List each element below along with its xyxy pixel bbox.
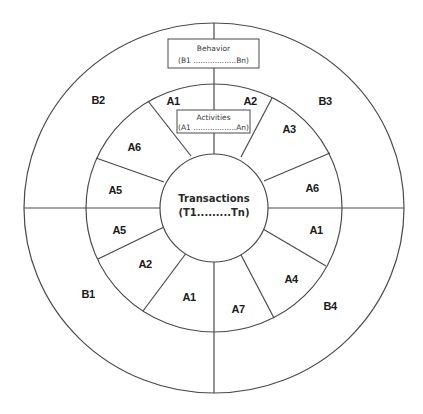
activity-label: A2 (243, 95, 256, 107)
activities-box: Activities (A1 ..................An) (177, 110, 250, 133)
behavior-box-range: (B1 ..................Bn) (178, 56, 249, 65)
center-title: Transactions (178, 193, 249, 204)
activity-label: A3 (282, 123, 295, 135)
activities-box-range: (A1 ..................An) (178, 123, 249, 132)
spoke (98, 227, 164, 259)
behavior-box: Behavior (B1 ..................Bn) (168, 39, 259, 68)
activity-label: A5 (108, 184, 121, 196)
center-subtitle: (T1.........Tn) (178, 207, 249, 218)
activity-label: A6 (305, 182, 318, 194)
behavior-box-title: Behavior (197, 44, 231, 53)
activity-label: A1 (166, 95, 179, 107)
behavior-label-b3: B3 (318, 95, 331, 107)
activity-label: A7 (231, 303, 244, 315)
activity-label: A5 (112, 224, 125, 236)
activity-label: A1 (182, 291, 195, 303)
concentric-behavior-diagram: Behavior (B1 ..................Bn) Activ… (0, 0, 423, 414)
spoke (264, 153, 330, 181)
behavior-label-b4: B4 (323, 300, 337, 312)
behavior-label-b2: B2 (91, 94, 104, 106)
activity-label: A1 (309, 224, 322, 236)
activity-label: A6 (127, 141, 140, 153)
activity-label: A2 (138, 258, 151, 270)
spoke (240, 253, 274, 318)
behavior-label-b1: B1 (81, 288, 94, 300)
activities-box-title: Activities (196, 113, 230, 122)
spoke (96, 158, 164, 182)
activity-label: A4 (284, 273, 298, 285)
